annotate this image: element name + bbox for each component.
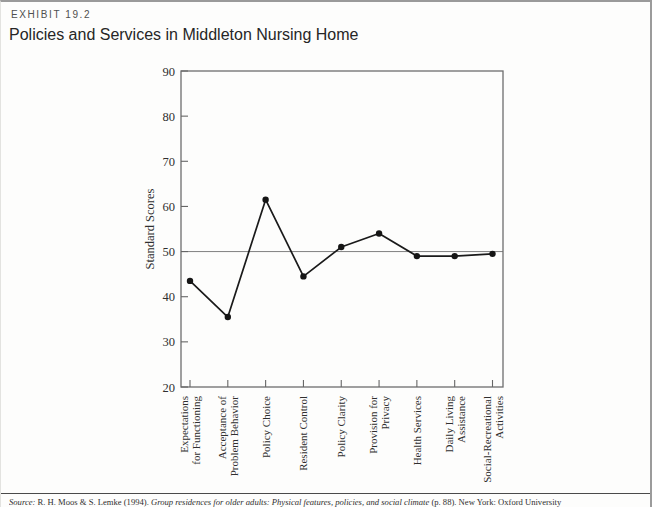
y-tick-label: 20 [163,381,176,395]
x-category-label: Policy Choice [260,396,272,458]
x-category-label: Expectations [178,396,190,453]
data-line [190,200,493,317]
y-tick-label: 50 [163,245,176,259]
plot-frame [181,71,503,387]
y-tick-label: 60 [163,200,176,214]
data-point [489,251,495,257]
y-tick-label: 80 [163,110,176,124]
y-tick-label: 90 [163,65,176,79]
data-point [262,196,268,202]
exhibit-page: EXHIBIT 19.2 Policies and Services in Mi… [0,0,652,507]
data-point [300,273,306,279]
x-category-label: Resident Control [297,396,309,471]
x-category-label: Activities [493,396,505,439]
source-book-title: Group residences for older adults: Physi… [151,497,429,507]
x-category-label: for Functioning [190,396,202,465]
data-point [225,314,231,320]
x-category-label: Privacy [379,396,391,430]
line-chart: 2030405060708090Standard ScoresExpectati… [1,2,652,507]
source-authors: R. H. Moos & S. Lemke (1994). [35,497,151,507]
data-point [414,253,420,259]
x-category-label: Problem Behavior [228,396,240,477]
y-tick-label: 30 [163,335,176,349]
data-point [187,278,193,284]
x-category-label: Provision for [367,396,379,454]
y-tick-label: 40 [163,290,176,304]
x-category-label: Acceptance of [216,396,228,460]
data-point [451,253,457,259]
x-category-label: Policy Clarity [335,396,347,458]
footer-divider [1,493,652,494]
source-prefix: Source: [9,497,35,507]
y-tick-label: 70 [163,155,176,169]
x-category-label: Health Services [411,396,423,465]
source-suffix: (p. 88). New York: Oxford University [429,497,561,507]
data-point [376,230,382,236]
x-category-label: Daily Living [443,396,455,453]
y-axis-title: Standard Scores [143,188,157,269]
x-category-label: Assistance [455,396,467,443]
x-category-label: Social-Recreational [481,396,493,483]
data-point [338,244,344,250]
source-citation: Source: R. H. Moos & S. Lemke (1994). Gr… [9,497,648,507]
